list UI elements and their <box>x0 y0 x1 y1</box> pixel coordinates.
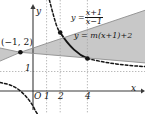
hyperbola-equation-lhs: y = <box>71 13 85 22</box>
point-dot-x4 <box>85 56 90 61</box>
y-axis-label: y <box>36 7 41 16</box>
x-tick-2: 2 <box>58 92 64 101</box>
x-tick-4: 4 <box>85 92 91 101</box>
x-axis-label: x <box>131 84 136 93</box>
pivot-point-label: (−1, 2) <box>1 38 33 47</box>
x-tick-1: 1 <box>44 92 50 101</box>
y-tick-1: 1 <box>25 64 31 73</box>
line-equation-label: y = m(x+1)+2 <box>74 32 132 40</box>
hyperbola-equation-label: y = x+1 x−1 <box>71 9 103 27</box>
hyperbola-left-branch <box>0 83 38 114</box>
y-axis-arrow <box>30 4 35 9</box>
math-figure: y x O 1 2 4 1 (−1, 2) y = x+1 x−1 y = m(… <box>0 0 145 114</box>
hyperbola-numerator: x+1 <box>85 9 103 17</box>
x-axis-arrow <box>141 88 145 93</box>
point-dot-pivot <box>18 50 23 55</box>
hyperbola-right-upper <box>49 0 60 33</box>
point-dot-x2 <box>58 30 63 35</box>
hyperbola-denominator: x−1 <box>85 17 103 26</box>
origin-label: O <box>34 92 41 101</box>
